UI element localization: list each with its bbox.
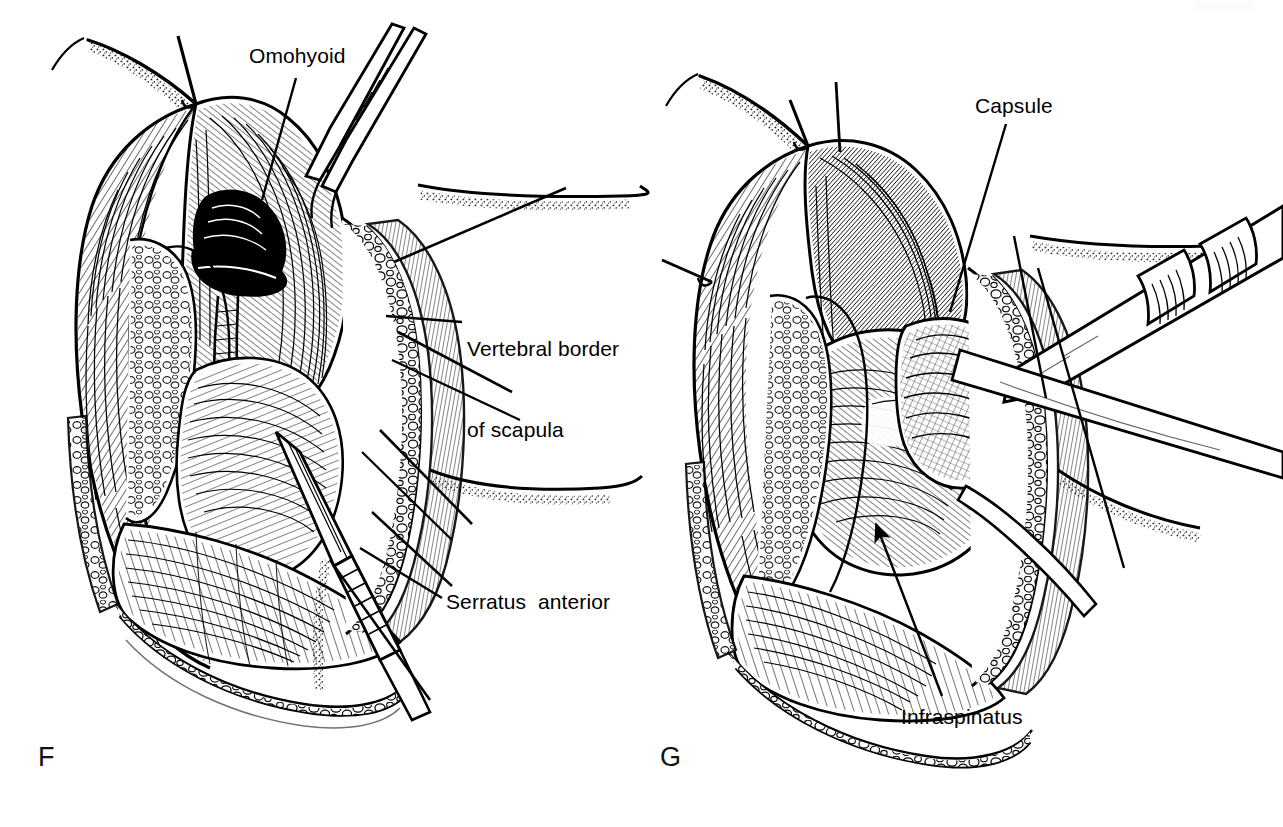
label-omohyoid: Omohyoid [249,42,346,69]
label-vertebral-border-line1: Vertebral border [467,335,619,362]
label-vertebral-border-line2: of scapula [467,416,619,443]
panel-letter-g: G [660,742,681,772]
panel-letter-f: F [38,742,55,772]
figure-root: Omohyoid Vertebral border of scapula Ser… [0,0,1283,827]
label-vertebral-border: Vertebral border of scapula [467,281,619,497]
surgical-illustration [0,0,1283,827]
label-serratus-anterior: Serratus anterior [446,588,610,615]
label-capsule: Capsule [975,92,1053,119]
label-infraspinatus: Infraspinatus [901,703,1023,730]
